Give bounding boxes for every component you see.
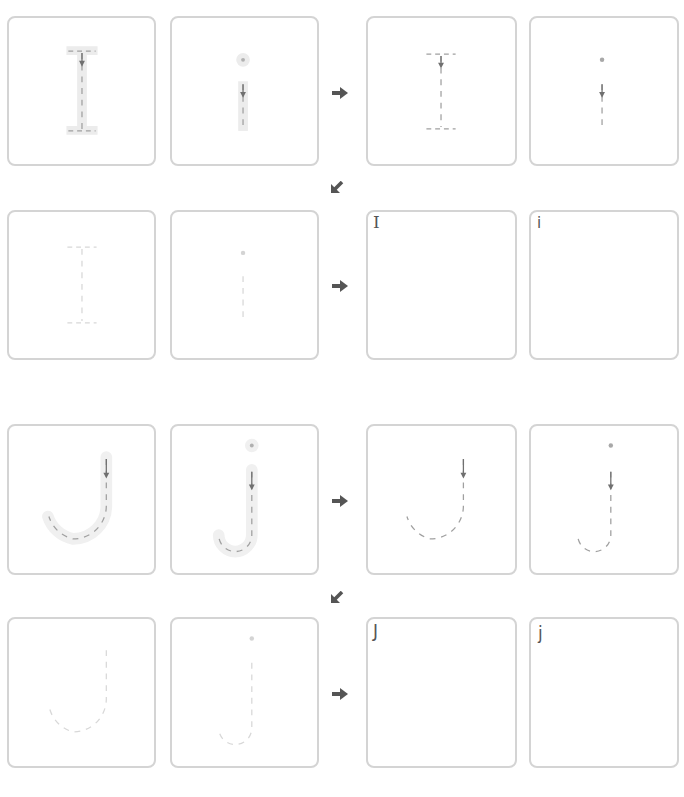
- letter-j-dashed-trace-icon: [531, 426, 677, 573]
- arrow-right-icon: [332, 85, 350, 99]
- letter-j-faint-trace-icon: [172, 619, 317, 766]
- letter-label-j: j: [538, 625, 543, 642]
- write-box-I[interactable]: I: [366, 210, 517, 360]
- trace-box-I-dashed[interactable]: [366, 16, 517, 166]
- letter-I-dashed-trace-icon: [368, 18, 515, 164]
- letter-J-faint-trace-icon: [9, 619, 154, 766]
- trace-box-J-guided[interactable]: [7, 424, 156, 575]
- arrow-down-left-icon: [329, 590, 347, 604]
- arrow-right-icon: [332, 493, 350, 507]
- trace-box-i-dashed[interactable]: [529, 16, 679, 166]
- trace-box-j-faint[interactable]: [170, 617, 319, 768]
- arrow-right-icon: [332, 686, 350, 700]
- trace-box-i-faint[interactable]: [170, 210, 319, 360]
- letter-i-faint-trace-icon: [172, 212, 317, 358]
- letter-I-guided-trace-icon: [9, 18, 154, 164]
- letter-j-guided-trace-icon: [172, 426, 317, 573]
- letter-I-faint-trace-icon: [9, 212, 154, 358]
- write-box-i[interactable]: i: [529, 210, 679, 360]
- trace-box-I-guided[interactable]: [7, 16, 156, 166]
- trace-box-i-guided[interactable]: [170, 16, 319, 166]
- letter-label-I: I: [373, 214, 380, 231]
- trace-box-J-faint[interactable]: [7, 617, 156, 768]
- letter-i-guided-trace-icon: [172, 18, 317, 164]
- letter-J-dashed-trace-icon: [368, 426, 515, 573]
- write-box-J[interactable]: J: [366, 617, 517, 768]
- write-box-j[interactable]: j: [529, 617, 679, 768]
- arrow-right-icon: [332, 278, 350, 292]
- trace-box-j-dashed[interactable]: [529, 424, 679, 575]
- trace-box-J-dashed[interactable]: [366, 424, 517, 575]
- letter-i-dashed-trace-icon: [531, 18, 677, 164]
- letter-label-i: i: [537, 216, 541, 231]
- trace-box-j-guided[interactable]: [170, 424, 319, 575]
- arrow-down-left-icon: [329, 180, 347, 194]
- letter-label-J: J: [373, 623, 378, 640]
- trace-box-I-faint[interactable]: [7, 210, 156, 360]
- letter-J-guided-trace-icon: [9, 426, 154, 573]
